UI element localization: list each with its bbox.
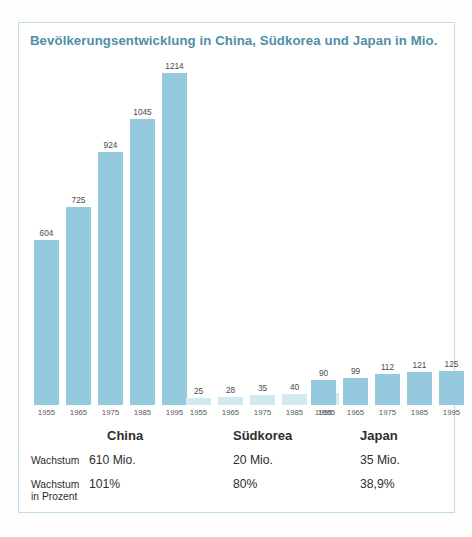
bar-year-label: 1985 — [280, 408, 309, 417]
bar-year-label: 1955 — [32, 408, 61, 417]
growth-percent-value-china: 101% — [89, 477, 120, 491]
bar-year-label: 1975 — [248, 408, 277, 417]
bar-value-label: 121 — [407, 360, 432, 370]
bar-value-label: 112 — [375, 362, 400, 372]
bar-value-label: 725 — [66, 195, 91, 205]
bar-value-label: 25 — [186, 386, 211, 396]
growth-value-china: 610 Mio. — [89, 453, 136, 467]
bar-year-label: 1975 — [96, 408, 125, 417]
bar-value-label: 1045 — [130, 107, 155, 117]
bar-japan-1955 — [311, 380, 336, 405]
bar-südkorea-1955 — [186, 398, 211, 405]
bar-südkorea-1985 — [282, 394, 307, 405]
bar-japan-1975 — [375, 374, 400, 405]
row-label-growth-percent: Wachstumin Prozent — [31, 479, 79, 502]
bar-value-label: 924 — [98, 140, 123, 150]
growth-percent-value-japan: 38,9% — [360, 477, 395, 491]
bar-value-label: 28 — [218, 385, 243, 395]
bar-china-1975 — [98, 152, 123, 405]
group-label-china: China — [107, 428, 143, 443]
row-label-line: in Prozent — [31, 491, 79, 503]
bar-year-label: 1965 — [216, 408, 245, 417]
bar-year-label: 1955 — [184, 408, 213, 417]
bar-china-1985 — [130, 119, 155, 405]
bar-year-label: 1975 — [373, 408, 402, 417]
bar-year-label: 1985 — [128, 408, 157, 417]
bar-value-label: 90 — [311, 368, 336, 378]
bar-value-label: 604 — [34, 228, 59, 238]
bar-value-label: 99 — [343, 366, 368, 376]
bar-südkorea-1975 — [250, 395, 275, 405]
bar-year-label: 1965 — [64, 408, 93, 417]
group-label-japan: Japan — [360, 428, 398, 443]
growth-value-sudkorea: 20 Mio. — [233, 453, 273, 467]
bar-value-label: 125 — [439, 359, 464, 369]
bar-japan-1985 — [407, 372, 432, 405]
bar-japan-1995 — [439, 371, 464, 405]
bar-value-label: 40 — [282, 382, 307, 392]
bar-china-1955 — [34, 240, 59, 405]
bar-china-1995 — [162, 73, 187, 405]
growth-percent-value-sudkorea: 80% — [233, 477, 257, 491]
bar-year-label: 1965 — [341, 408, 370, 417]
bar-value-label: 1214 — [162, 61, 187, 71]
growth-value-japan: 35 Mio. — [360, 453, 400, 467]
bar-year-label: 1955 — [309, 408, 338, 417]
page-canvas: Bevölkerungsentwicklung in China, Südkor… — [0, 0, 472, 537]
chart-frame: Bevölkerungsentwicklung in China, Südkor… — [18, 22, 455, 513]
bar-year-label: 1995 — [437, 408, 466, 417]
row-label-line: Wachstum — [31, 479, 79, 491]
bar-year-label: 1985 — [405, 408, 434, 417]
bar-japan-1965 — [343, 378, 368, 405]
bar-value-label: 35 — [250, 383, 275, 393]
row-label-growth: Wachstum — [31, 455, 79, 467]
group-label-sudkorea: Südkorea — [233, 428, 292, 443]
bar-südkorea-1965 — [218, 397, 243, 405]
bar-china-1965 — [66, 207, 91, 405]
